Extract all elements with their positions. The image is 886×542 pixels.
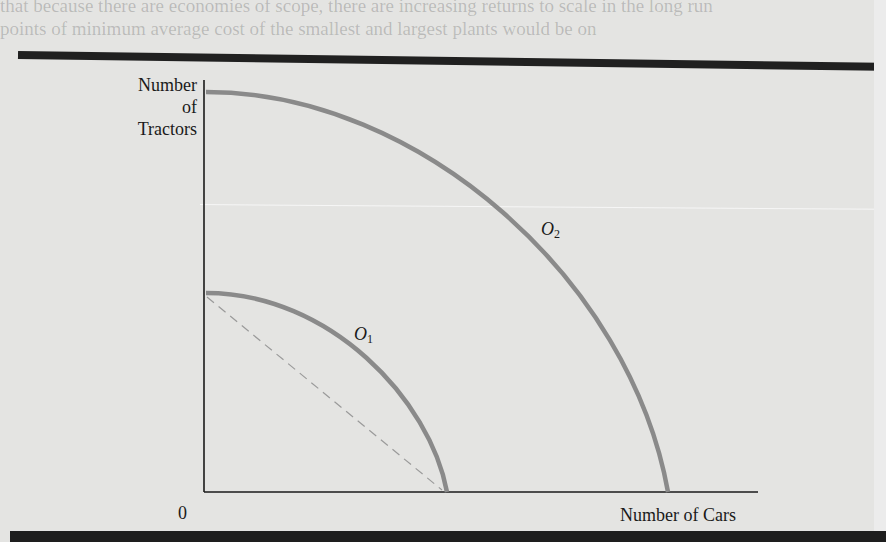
o1-label-main: O xyxy=(354,324,367,344)
o1-label: O1 xyxy=(354,324,373,347)
x-axis-label: Number of Cars xyxy=(620,505,736,526)
page-edge xyxy=(874,0,886,542)
o2-label: O2 xyxy=(541,219,560,242)
curve-o2 xyxy=(206,92,668,492)
y-axis-label: Number of Tractors xyxy=(110,74,197,140)
origin-label: 0 xyxy=(178,503,187,524)
bottom-rule xyxy=(10,531,886,542)
y-label-line-1: Number xyxy=(110,74,197,96)
y-label-line-2: of xyxy=(110,96,197,118)
curve-o1 xyxy=(206,293,447,492)
o2-label-sub: 2 xyxy=(554,227,560,241)
y-label-line-3: Tractors xyxy=(110,118,197,140)
o2-label-main: O xyxy=(541,219,554,239)
o1-label-sub: 1 xyxy=(367,332,373,346)
